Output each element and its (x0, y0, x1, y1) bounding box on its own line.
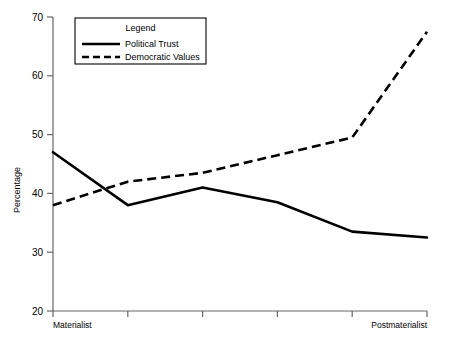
legend-title: Legend (125, 23, 155, 33)
legend-label-political-trust: Political Trust (125, 39, 179, 49)
legend: Legend Political Trust Democratic Values (75, 18, 206, 64)
y-tick-label-20: 20 (32, 306, 44, 317)
chart-container: 20 30 40 50 60 70 Materialist Postmateri… (0, 0, 463, 344)
y-axis-title: Percentage (12, 167, 22, 213)
line-chart: 20 30 40 50 60 70 Materialist Postmateri… (0, 0, 463, 344)
y-tick-label-30: 30 (32, 247, 44, 258)
chart-background (0, 0, 463, 344)
legend-label-democratic-values: Democratic Values (125, 52, 200, 62)
y-tick-label-70: 70 (32, 12, 44, 23)
x-axis-label-postmaterialist: Postmaterialist (371, 320, 427, 330)
x-axis-label-materialist: Materialist (53, 320, 92, 330)
y-tick-label-40: 40 (32, 188, 44, 199)
y-tick-label-50: 50 (32, 129, 44, 140)
y-tick-label-60: 60 (32, 70, 44, 81)
